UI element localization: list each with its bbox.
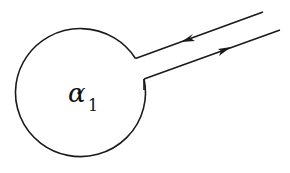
lower-ray [144, 30, 280, 79]
alpha-label: α [68, 78, 86, 108]
alpha-subscript: 1 [88, 96, 98, 115]
keyhole-contour-diagram [0, 0, 290, 173]
upper-ray [136, 12, 264, 59]
